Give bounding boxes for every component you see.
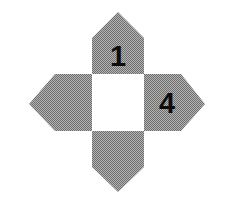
- figure-canvas: 1 4: [0, 0, 234, 209]
- top-arm-number: 1: [110, 40, 126, 72]
- center-square: [92, 74, 144, 131]
- right-arm-number: 4: [159, 87, 175, 119]
- bottom-arm: [92, 131, 144, 192]
- flower-figure: 1 4: [0, 0, 234, 209]
- left-arm: [29, 74, 92, 131]
